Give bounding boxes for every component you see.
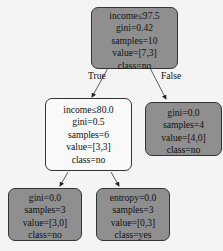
node-left: income≤80.0 gini=0.5 samples=6 value=[3,… — [45, 98, 132, 171]
node-line: class=no — [46, 154, 131, 166]
node-line: income≤80.0 — [46, 104, 131, 116]
node-right: gini=0.0 samples=4 value=[4,0] class=no — [145, 102, 222, 156]
node-line: class=no — [92, 60, 177, 72]
node-line: samples=4 — [146, 119, 221, 131]
node-line: class=yes — [97, 229, 169, 241]
node-root: income≤97.5 gini=0.42 samples=10 value=[… — [91, 7, 178, 69]
node-line: samples=6 — [46, 129, 131, 141]
node-line: income≤97.5 — [92, 10, 177, 22]
node-line: gini=0.0 — [9, 192, 81, 204]
node-line: value=[0,3] — [97, 217, 169, 229]
edge-left-leftleft — [60, 172, 68, 186]
edge-left-leftright — [111, 172, 119, 186]
node-line: samples=3 — [97, 204, 169, 216]
node-left-left: gini=0.0 samples=3 value=[3,0] class=no — [8, 188, 82, 241]
node-line: samples=10 — [92, 35, 177, 47]
node-line: class=no — [9, 229, 81, 241]
node-line: class=no — [146, 144, 221, 156]
node-line: entropy=0.0 — [97, 192, 169, 204]
node-line: value=[3,3] — [46, 141, 131, 153]
node-line: samples=3 — [9, 204, 81, 216]
node-line: gini=0.5 — [46, 116, 131, 128]
node-line: gini=0.0 — [146, 107, 221, 119]
node-line: value=[7,3] — [92, 47, 177, 59]
node-line: value=[4,0] — [146, 132, 221, 144]
node-left-right: entropy=0.0 samples=3 value=[0,3] class=… — [96, 188, 170, 241]
node-line: value=[3,0] — [9, 217, 81, 229]
node-line: gini=0.42 — [92, 22, 177, 34]
